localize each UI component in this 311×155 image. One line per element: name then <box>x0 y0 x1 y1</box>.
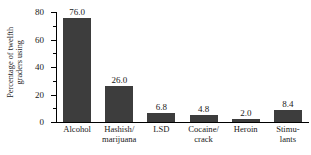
bar[interactable]: 8.4 <box>274 12 302 122</box>
y-tick-major: 80 <box>51 12 56 13</box>
bar-value-label: 26.0 <box>111 75 127 85</box>
bar-rect[interactable] <box>190 115 218 122</box>
bar-rect[interactable] <box>274 110 302 122</box>
category-label-line1: LSD <box>140 125 182 135</box>
bar-value-label: 8.4 <box>282 99 293 109</box>
category-label-line1: Heroin <box>225 125 267 135</box>
y-tick-major: 60 <box>51 40 56 41</box>
y-tick-label: 40 <box>35 62 44 72</box>
y-tick-major: 20 <box>51 95 56 96</box>
category-label-line2: marijuana <box>98 135 140 145</box>
y-tick-major: 0 <box>51 122 56 123</box>
y-tick-minor <box>53 53 56 54</box>
y-axis-title: Percentage of twelfth graders using <box>0 0 30 124</box>
bar-value-label: 4.8 <box>198 104 209 114</box>
bar[interactable]: 6.8 <box>147 12 175 122</box>
bar-rect[interactable] <box>105 86 133 122</box>
bar[interactable]: 4.8 <box>190 12 218 122</box>
x-axis-category-label: Stimu-lants <box>267 125 309 145</box>
x-axis-line <box>56 122 309 123</box>
bar[interactable]: 26.0 <box>105 12 133 122</box>
x-axis-category-label: Hashish/marijuana <box>98 125 140 145</box>
x-axis-category-label: LSD <box>140 125 182 135</box>
bar-value-label: 6.8 <box>156 102 167 112</box>
bar-chart: Percentage of twelfth graders using 0204… <box>0 0 311 155</box>
y-tick-label: 60 <box>35 35 44 45</box>
plot-area: 020406080 76.026.06.84.82.08.4 <box>56 12 309 122</box>
x-axis-category-label: Heroin <box>225 125 267 135</box>
y-tick-major: 40 <box>51 67 56 68</box>
category-label-line2: crack <box>183 135 225 145</box>
x-axis-category-label: Cocaine/crack <box>183 125 225 145</box>
bar-value-label: 2.0 <box>240 108 251 118</box>
y-tick-minor <box>53 81 56 82</box>
y-axis-line <box>56 12 57 122</box>
bar-rect[interactable] <box>63 18 91 123</box>
bar-value-label: 76.0 <box>69 7 85 17</box>
y-tick-minor <box>53 108 56 109</box>
bar[interactable]: 2.0 <box>232 12 260 122</box>
bar-rect[interactable] <box>232 119 260 122</box>
y-tick-label: 80 <box>35 7 44 17</box>
y-tick-label: 0 <box>40 117 45 127</box>
y-axis-title-line2: graders using <box>15 27 24 98</box>
category-label-line1: Alcohol <box>56 125 98 135</box>
bar[interactable]: 76.0 <box>63 12 91 122</box>
category-label-line2: lants <box>267 135 309 145</box>
bar-rect[interactable] <box>147 113 175 122</box>
y-tick-label: 20 <box>35 90 44 100</box>
x-axis-category-label: Alcohol <box>56 125 98 135</box>
y-tick-minor <box>53 26 56 27</box>
y-axis-title-line1: Percentage of twelfth <box>6 27 15 98</box>
